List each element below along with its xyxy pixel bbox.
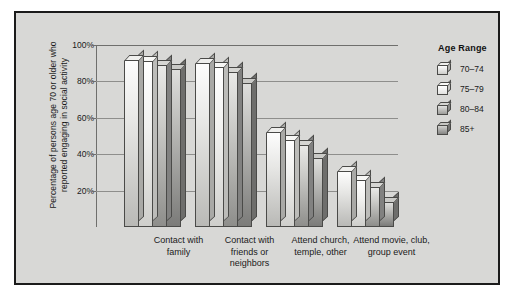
y-tick-label-40: 40%	[48, 149, 94, 159]
legend-swatch-2	[437, 103, 450, 115]
bar-face	[266, 132, 281, 227]
y-tick-mark-20	[92, 191, 96, 192]
legend-label-3: 85+	[460, 124, 474, 134]
y-axis-title-text: Percentage of persons age 70 or older wh…	[48, 41, 70, 208]
bar-3-0	[337, 171, 352, 227]
legend-label-0: 70–74	[460, 64, 484, 74]
legend-swatch-1	[437, 83, 450, 95]
swatch-face	[437, 125, 448, 135]
legend-entry-3: 85+	[428, 120, 512, 138]
bar-face	[337, 171, 352, 227]
y-axis-line	[96, 45, 97, 227]
y-tick-mark-60	[92, 118, 96, 119]
swatch-face	[437, 105, 448, 115]
bar-face	[195, 63, 210, 227]
chart-screenshot: Percentage of persons age 70 or older wh…	[0, 0, 514, 298]
y-tick-label-100: 100%	[48, 40, 94, 50]
y-tick-mark-40	[92, 154, 96, 155]
legend-label-2: 80–84	[460, 104, 484, 114]
legend-entries: 70–7475–7980–8485+	[428, 60, 512, 138]
bar-face	[124, 60, 139, 227]
y-tick-label-60: 60%	[48, 113, 94, 123]
legend-swatch-3	[437, 123, 450, 135]
legend-title: Age Range	[438, 43, 512, 53]
swatch-face	[437, 85, 448, 95]
legend-label-1: 75–79	[460, 84, 484, 94]
y-tick-label-80: 80%	[48, 76, 94, 86]
legend: Age Range 70–7475–7980–8485+	[428, 43, 512, 140]
legend-entry-0: 70–74	[428, 60, 512, 78]
y-tick-mark-100	[92, 45, 96, 46]
legend-entry-1: 75–79	[428, 80, 512, 98]
x-label-3: Attend movie, club, group event	[340, 235, 444, 258]
legend-entry-2: 80–84	[428, 100, 512, 118]
y-tick-mark-80	[92, 81, 96, 82]
bar-0-0	[124, 60, 139, 227]
swatch-face	[437, 65, 448, 75]
legend-swatch-0	[437, 63, 450, 75]
gridline-100	[96, 45, 398, 46]
bar-1-0	[195, 63, 210, 227]
bar-2-0	[266, 132, 281, 227]
chart-frame: Percentage of persons age 70 or older wh…	[14, 11, 500, 285]
y-tick-label-20: 20%	[48, 186, 94, 196]
plot-area: 100%80%60%40%20%	[96, 45, 398, 227]
